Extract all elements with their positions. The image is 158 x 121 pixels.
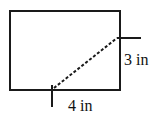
- dashed-diagonal: [54, 38, 117, 88]
- rectangle: [10, 11, 120, 90]
- vertical-dimension-label: 3 in: [124, 51, 148, 68]
- horizontal-dimension-label: 4 in: [68, 97, 92, 114]
- diagram: 3 in 4 in: [0, 0, 158, 121]
